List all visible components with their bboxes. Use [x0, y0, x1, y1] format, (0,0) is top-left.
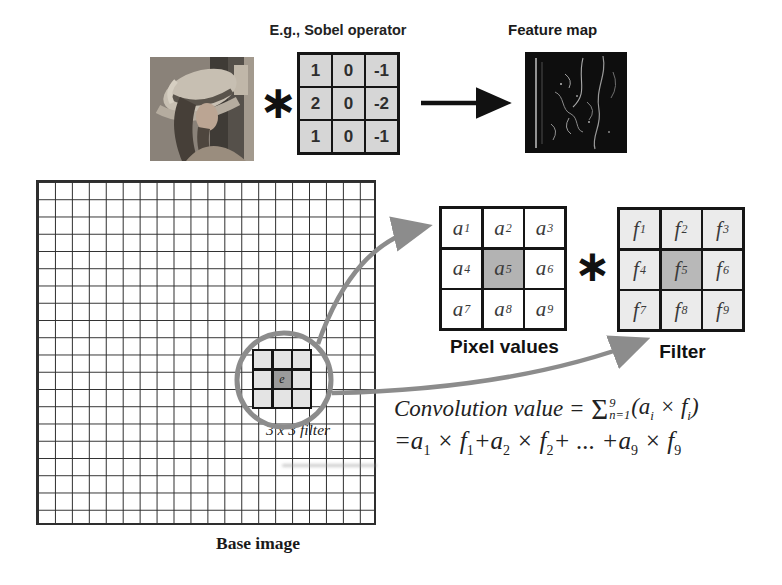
pixel-values-label: Pixel values — [432, 336, 577, 358]
input-photo-image — [150, 57, 254, 161]
matrix-cell: 2 — [300, 88, 331, 119]
matrix-cell: a8 — [484, 290, 523, 328]
matrix-cell: f5 — [662, 251, 701, 289]
grid-window-cell — [293, 351, 310, 368]
feature-map-image — [525, 52, 627, 153]
matrix-cell: f6 — [703, 251, 742, 289]
convolve-operator-top: ∗ — [259, 79, 298, 125]
feature-map-label: Feature map — [508, 21, 648, 38]
matrix-cell: 1 — [300, 121, 331, 152]
grid-window-cell — [293, 371, 310, 388]
grid-window-cell — [254, 371, 271, 388]
convolution-formula: Convolution value = Σ 9 n=1 (ai × fi) =a… — [394, 394, 774, 459]
matrix-cell: a7 — [442, 290, 481, 328]
matrix-cell: f2 — [662, 210, 701, 248]
summation-symbol: Σ 9 n=1 — [591, 396, 630, 422]
sobel-operator-title: E.g., Sobel operator — [258, 22, 418, 38]
matrix-cell: -1 — [366, 121, 397, 152]
filter-label: Filter — [610, 341, 755, 363]
matrix-cell: 0 — [333, 121, 364, 152]
matrix-cell: f1 — [620, 210, 659, 248]
matrix-cell: 0 — [333, 55, 364, 86]
grid-window-cell — [293, 390, 310, 407]
feature-map-edges — [525, 52, 627, 153]
matrix-cell: a5 — [484, 250, 523, 288]
base-image-grid — [36, 180, 376, 525]
base-image-label: Base image — [188, 533, 328, 554]
grid-filter-window: e — [252, 349, 312, 409]
matrix-cell: a9 — [525, 290, 564, 328]
matrix-cell: 1 — [300, 55, 331, 86]
formula-line-2: =a1 × f1+a2 × f2+ ... +a9 × f9 — [394, 427, 774, 459]
filter-window-label: 3 x 3 filter — [243, 421, 353, 439]
filter-matrix: f1f2f3f4f5f6f7f8f9 — [617, 207, 745, 332]
convolution-diagram: ∗ E.g., Sobel operator 10-120-210-1 Feat… — [0, 0, 782, 585]
matrix-cell: f9 — [703, 291, 742, 329]
grid-smudge-artifact — [282, 464, 377, 467]
matrix-cell: -1 — [366, 55, 397, 86]
matrix-cell: f8 — [662, 291, 701, 329]
matrix-cell: a1 — [442, 209, 481, 247]
matrix-cell: a6 — [525, 250, 564, 288]
grid-window-cell — [274, 351, 291, 368]
matrix-cell: 0 — [333, 88, 364, 119]
matrix-cell: a2 — [484, 209, 523, 247]
matrix-cell: f4 — [620, 251, 659, 289]
grid-window-cell — [254, 351, 271, 368]
matrix-cell: a4 — [442, 250, 481, 288]
formula-line-1: Convolution value = Σ 9 n=1 (ai × fi) — [394, 394, 774, 424]
grid-center-cell: e — [274, 371, 291, 388]
matrix-cell: -2 — [366, 88, 397, 119]
input-photo — [150, 57, 254, 161]
grid-window-cell — [274, 390, 291, 407]
matrix-cell: f7 — [620, 291, 659, 329]
pixel-values-matrix: a1a2a3a4a5a6a7a8a9 — [439, 206, 567, 331]
grid-window-cell — [254, 390, 271, 407]
formula-lead: Convolution value = — [394, 396, 590, 422]
matrix-cell: f3 — [703, 210, 742, 248]
sobel-kernel-matrix: 10-120-210-1 — [297, 52, 400, 155]
matrix-cell: a3 — [525, 209, 564, 247]
convolve-operator-mid: ∗ — [574, 244, 611, 288]
